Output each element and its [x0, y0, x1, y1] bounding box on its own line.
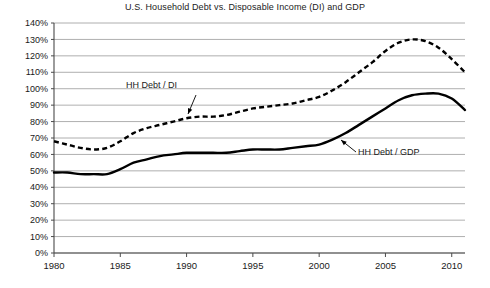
y-tick-label: 70%: [30, 133, 48, 143]
y-tick-label: 140%: [25, 18, 48, 28]
y-tick-label: 20%: [30, 215, 48, 225]
series-annotation-label: HH Debt / DI: [126, 80, 177, 90]
x-tick-label: 1990: [176, 260, 197, 271]
x-tick-label: 1985: [110, 260, 131, 271]
gridlines: [54, 23, 465, 253]
y-tick-label: 80%: [30, 117, 48, 127]
series-annotations: HH Debt / DIHH Debt / GDP: [126, 80, 420, 157]
x-axis: 1980198519901995200020052010: [43, 253, 465, 271]
y-tick-label: 110%: [26, 67, 48, 77]
chart-canvas: 0%10%20%30%40%50%60%70%80%90%100%110%120…: [0, 0, 490, 288]
y-tick-label: 10%: [30, 232, 48, 242]
x-tick-label: 2010: [441, 260, 462, 271]
y-tick-label: 60%: [30, 150, 48, 160]
y-tick-label: 50%: [30, 166, 48, 176]
y-tick-label: 100%: [25, 84, 48, 94]
y-axis: 0%10%20%30%40%50%60%70%80%90%100%110%120…: [25, 18, 54, 258]
y-tick-label: 40%: [30, 182, 48, 192]
series-annotation-label: HH Debt / GDP: [358, 147, 420, 157]
y-tick-label: 130%: [25, 35, 48, 45]
annotation-arrowhead: [188, 108, 192, 114]
y-tick-label: 0%: [35, 248, 48, 258]
chart-figure: U.S. Household Debt vs. Disposable Incom…: [0, 0, 490, 288]
x-tick-label: 1980: [43, 260, 64, 271]
y-tick-label: 30%: [30, 199, 48, 209]
y-tick-label: 90%: [30, 100, 48, 110]
x-tick-label: 2005: [375, 260, 396, 271]
x-tick-label: 1995: [242, 260, 263, 271]
y-tick-label: 120%: [25, 51, 48, 61]
x-tick-label: 2000: [309, 260, 330, 271]
